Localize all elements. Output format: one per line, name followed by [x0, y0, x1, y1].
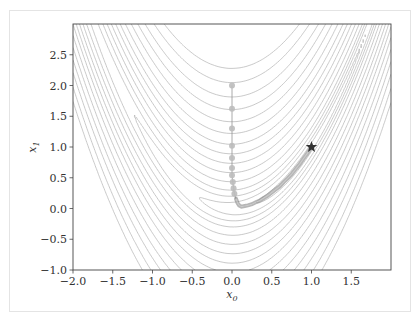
y-tick-label: 1.5 — [50, 110, 68, 123]
x-tick-label: −1.5 — [99, 275, 126, 288]
x-axis-ticks: −2.0−1.5−1.0−0.50.00.51.01.5 — [60, 270, 360, 288]
path-point — [229, 83, 235, 89]
x-axis-label: x0 — [226, 288, 237, 303]
y-tick-label: 0.5 — [50, 172, 68, 185]
path-point — [229, 155, 235, 161]
path-point — [231, 191, 237, 197]
x-tick-label: 1.0 — [303, 275, 321, 288]
x-tick-label: 0.5 — [263, 275, 281, 288]
y-tick-label: 0.0 — [50, 203, 68, 216]
y-tick-label: 2.0 — [50, 80, 68, 93]
path-point — [230, 179, 236, 185]
x-tick-label: 0.0 — [223, 275, 241, 288]
y-axis-label: x1 — [26, 141, 41, 152]
path-point — [229, 172, 235, 178]
path-point — [231, 185, 237, 191]
y-tick-label: 2.5 — [50, 49, 68, 62]
contour-line — [200, 24, 373, 215]
path-point — [229, 165, 235, 171]
x-tick-label: −1.0 — [139, 275, 166, 288]
path-point — [229, 106, 235, 112]
y-tick-label: 1.0 — [50, 141, 68, 154]
y-tick-label: −0.5 — [40, 233, 67, 246]
x-tick-label: 1.5 — [343, 275, 361, 288]
contour-plot: −2.0−1.5−1.0−0.50.00.51.01.5 −1.0−0.50.0… — [0, 0, 419, 322]
y-tick-label: −1.0 — [40, 264, 67, 277]
path-point — [229, 143, 235, 149]
path-point — [229, 126, 235, 132]
x-tick-label: −0.5 — [179, 275, 206, 288]
path-line — [232, 86, 312, 207]
y-axis-ticks: −1.0−0.50.00.51.01.52.02.5 — [40, 49, 73, 277]
